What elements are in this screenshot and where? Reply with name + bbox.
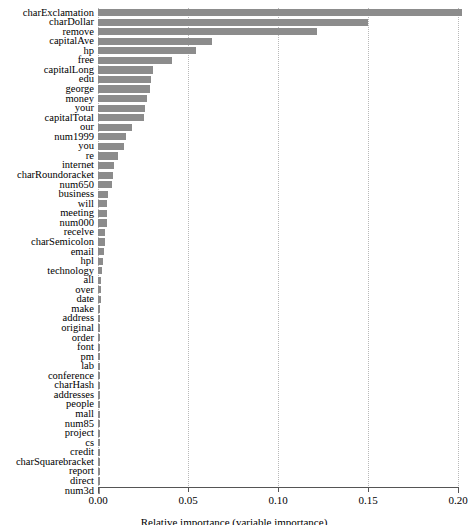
x-tick [278,487,279,492]
x-tick [98,487,99,492]
x-tick-label: 0.10 [248,494,308,506]
x-tick-label: 0.20 [428,494,468,506]
x-tick [188,487,189,492]
variable-importance-chart: charExclamationcharDollarremovecapitalAv… [0,0,468,525]
x-tick-label: 0.00 [68,494,128,506]
x-tick-label: 0.05 [158,494,218,506]
category-axis-labels: charExclamationcharDollarremovecapitalAv… [0,0,468,525]
x-tick [368,487,369,492]
x-tick-label: 0.15 [338,494,398,506]
x-tick [458,487,459,492]
x-axis-title: Relative importance (variable importance… [0,516,468,525]
